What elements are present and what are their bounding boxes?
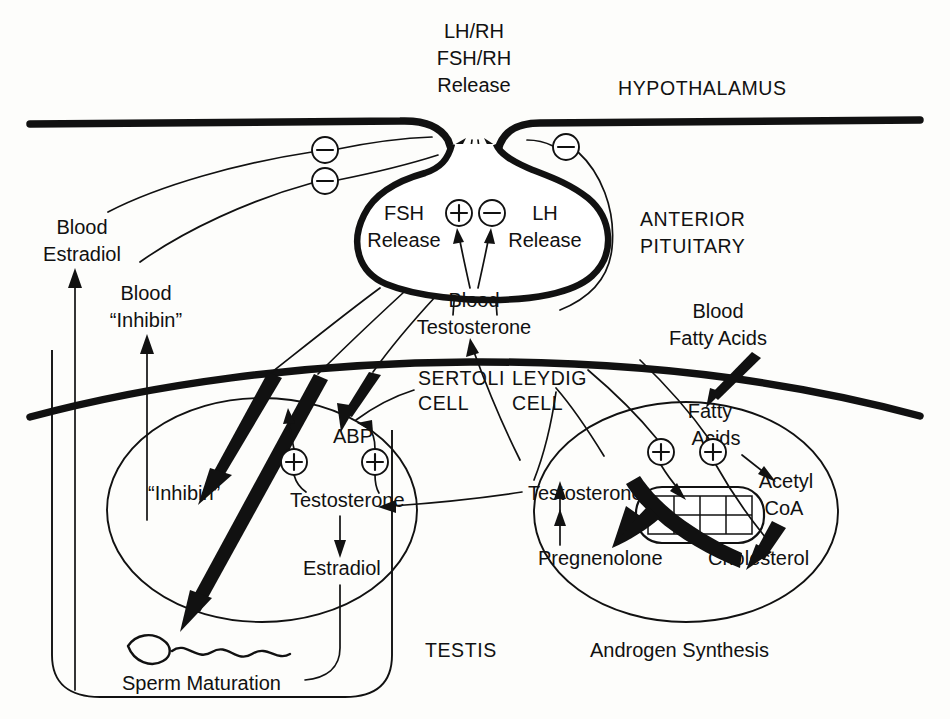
blood-inhibin-line2: “Inhibin”	[110, 309, 182, 331]
anterior-pituitary-label-line2: PITUITARY	[640, 235, 745, 257]
sign-plus-sertoli-abp	[362, 449, 388, 475]
sign-plus-fsh	[446, 200, 472, 226]
blood-fatty-acids-line1: Blood	[692, 300, 743, 322]
sign-plus-leydig-left	[648, 439, 674, 465]
anterior-pituitary-label-line1: ANTERIOR	[640, 208, 746, 230]
sertoli-cell-label-line2: CELL	[418, 392, 469, 414]
leydig-acetyl-line2: CoA	[765, 497, 805, 519]
estradiol-to-blood-arrow	[68, 268, 82, 690]
leydig-cell-label-line1: LEYDIG	[512, 367, 587, 389]
sign-minus-hypothalamus-right	[553, 134, 579, 160]
hypothalamus-region-label: HYPOTHALAMUS	[618, 77, 787, 99]
sign-plus-sertoli-left	[281, 449, 307, 475]
sperm-maturation-label: Sperm Maturation	[122, 672, 281, 694]
sign-plus-leydig-right	[700, 439, 726, 465]
lh-release-line1: LH	[532, 202, 558, 224]
blood-fatty-acids-line2: Fatty Acids	[669, 327, 767, 349]
sperm-cell-icon	[128, 635, 290, 664]
testosterone-to-estradiol-arrow	[334, 516, 346, 558]
testis-label: TESTIS	[425, 639, 497, 661]
sertoli-inhibin-label: “Inhibin”	[148, 482, 220, 504]
plus-leydig-left-uplink	[588, 370, 657, 439]
blood-estradiol-line1: Blood	[56, 216, 107, 238]
hypothalamus-release-line1: LH/RH	[444, 20, 504, 42]
androgen-synthesis-caption: Androgen Synthesis	[590, 639, 769, 661]
sertoli-estradiol-label: Estradiol	[303, 557, 381, 579]
blood-estradiol-line2: Estradiol	[43, 243, 121, 265]
sign-minus-hypothalamus-lower	[312, 168, 338, 194]
blood-testosterone-line2: Testosterone	[417, 316, 532, 338]
fsh-release-line1: FSH	[384, 202, 424, 224]
blood-testosterone-line1: Blood	[448, 289, 499, 311]
estradiol-down-link	[305, 585, 340, 680]
leydig-testosterone-label: Testosterone	[528, 482, 643, 504]
sign-minus-hypothalamus-upper	[312, 137, 338, 163]
sign-minus-lh	[479, 200, 505, 226]
sertoli-cell-label-line1: SERTOLI	[418, 367, 505, 389]
hypothalamus-release-line3: Release	[437, 74, 510, 96]
hypothalamus-release-line2: FSH/RH	[437, 47, 511, 69]
figure-canvas: LH/RH FSH/RH Release HYPOTHALAMUS ANTERI…	[0, 0, 950, 719]
endocrine-axis-diagram: LH/RH FSH/RH Release HYPOTHALAMUS ANTERI…	[0, 0, 950, 719]
leydig-pregnenolone-label: Pregnenolone	[538, 547, 663, 569]
fsh-release-line2: Release	[367, 229, 440, 251]
lh-release-line2: Release	[508, 229, 581, 251]
blood-inhibin-line1: Blood	[120, 282, 171, 304]
